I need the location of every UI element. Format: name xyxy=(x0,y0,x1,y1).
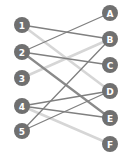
right-node-F: F xyxy=(102,136,118,152)
node-label: E xyxy=(107,114,113,124)
node-label: 1 xyxy=(19,21,25,31)
node-label: F xyxy=(107,140,113,150)
left-node-4: 4 xyxy=(14,98,30,114)
bipartite-diagram: 12345ABCDEF xyxy=(0,0,129,160)
right-node-E: E xyxy=(102,110,118,126)
node-label: D xyxy=(106,87,113,97)
node-label: 5 xyxy=(19,127,25,137)
node-label: B xyxy=(107,35,114,45)
right-node-A: A xyxy=(102,5,118,21)
right-node-C: C xyxy=(102,57,118,73)
node-label: C xyxy=(107,61,114,71)
edge-4-D xyxy=(22,91,110,106)
left-node-5: 5 xyxy=(14,123,30,139)
node-label: A xyxy=(107,9,114,19)
node-label: 4 xyxy=(19,102,25,112)
node-label: 3 xyxy=(19,74,25,84)
left-node-1: 1 xyxy=(14,17,30,33)
right-node-D: D xyxy=(102,83,118,99)
node-layer: 12345ABCDEF xyxy=(14,5,118,152)
right-node-B: B xyxy=(102,31,118,47)
edge-layer xyxy=(22,13,110,144)
left-node-2: 2 xyxy=(14,44,30,60)
node-label: 2 xyxy=(19,48,25,58)
left-node-3: 3 xyxy=(14,70,30,86)
edge-5-B xyxy=(22,39,110,131)
